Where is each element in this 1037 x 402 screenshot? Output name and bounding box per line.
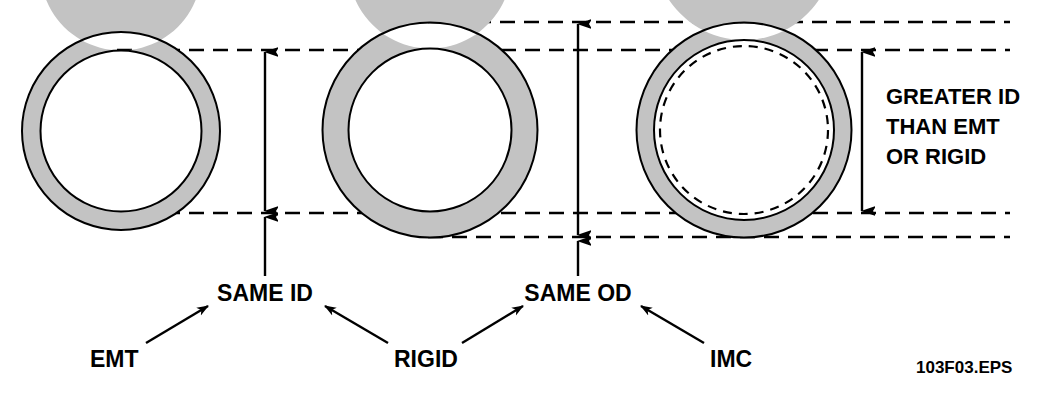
figure-caption: 103F03.EPS bbox=[916, 358, 1012, 377]
greater-id-dimension-group: GREATER ID THAN EMT OR RIGID bbox=[862, 52, 1020, 211]
bottom-leader-arrows-group bbox=[146, 306, 704, 343]
conduit-name-labels-group: EMT RIGID IMC bbox=[90, 346, 752, 372]
greater-id-note-line-1: GREATER ID bbox=[886, 84, 1020, 109]
rigid-to-same-id-arrow bbox=[325, 306, 388, 343]
same-od-callout-label: SAME OD bbox=[524, 280, 631, 306]
conduit-label-emt: EMT bbox=[90, 346, 139, 372]
emt-to-same-id-arrow bbox=[146, 306, 208, 343]
conduit-label-rigid: RIGID bbox=[394, 346, 458, 372]
reference-lines-group bbox=[117, 22, 1010, 237]
greater-id-note-line-2: THAN EMT bbox=[886, 114, 1000, 139]
rigid-to-same-od-arrow bbox=[462, 306, 523, 343]
same-od-dimension-group: SAME OD bbox=[524, 24, 631, 306]
imc-inner-bore-circle bbox=[654, 40, 834, 220]
conduit-label-imc: IMC bbox=[710, 346, 752, 372]
emt-inner-bore-circle bbox=[41, 51, 202, 212]
imc-to-same-od-arrow bbox=[641, 306, 704, 343]
greater-id-note-line-3: OR RIGID bbox=[886, 144, 986, 169]
diagram-canvas: SAME ID SAME OD GREATER ID THAN EMT OR R… bbox=[0, 0, 1037, 402]
conduit-imc bbox=[636, 0, 851, 238]
rigid-inner-bore-circle bbox=[349, 49, 512, 212]
conduit-emt bbox=[22, 0, 220, 230]
conduit-rigid bbox=[322, 0, 537, 238]
conduit-comparison-figure: SAME ID SAME OD GREATER ID THAN EMT OR R… bbox=[0, 0, 1037, 402]
same-id-dimension-group: SAME ID bbox=[217, 52, 313, 306]
same-id-callout-label: SAME ID bbox=[217, 280, 313, 306]
